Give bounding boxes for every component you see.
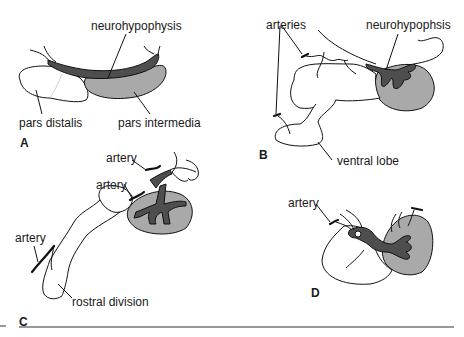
- panel-c-artery-top-label: artery: [106, 151, 137, 165]
- panel-b-upper-curve: [414, 38, 443, 64]
- panel-b-letter: B: [259, 148, 268, 162]
- panel-a-stalk-line-4: [158, 46, 160, 56]
- panel-a-stalk-line-2: [44, 46, 56, 62]
- panel-b-neurohypophysis-label: neurohypophsis: [366, 18, 451, 32]
- panel-d: artery D: [288, 196, 433, 300]
- panel-b-arteries-leader-2: [276, 26, 280, 114]
- panel-a-stalk-line-3: [144, 46, 154, 54]
- panel-c-curl-1: [172, 152, 188, 181]
- panel-c-rostral-division-label: rostral division: [72, 295, 149, 309]
- panel-a-pars-distalis-label: pars distalis: [19, 116, 82, 130]
- panel-a-neurohypophysis-label: neurohypophysis: [91, 19, 182, 33]
- panel-b-ventral-lobe-leader: [318, 142, 332, 160]
- panel-c-stalk-right: [62, 212, 120, 296]
- pituitary-comparative-anatomy-figure: neurohypophysis pars distalis pars inter…: [0, 0, 464, 337]
- panel-d-artery-label: artery: [288, 196, 319, 210]
- panel-a: neurohypophysis pars distalis pars inter…: [19, 19, 201, 150]
- panel-d-letter: D: [311, 286, 320, 300]
- panel-a-pars-intermedia-label: pars intermedia: [118, 116, 201, 130]
- panel-b-arteries-label: arteries: [266, 18, 306, 32]
- panel-d-vessel-loop: [355, 231, 361, 237]
- panel-d-artery-right: [412, 208, 422, 210]
- panel-b-artery-vessel: [306, 55, 348, 60]
- panel-c: artery artery artery rostral division C: [15, 151, 198, 329]
- panel-b-ventral-lobe-label: ventral lobe: [337, 154, 399, 168]
- panel-b-neurohypophysis-leader: [386, 34, 398, 70]
- panel-c-artery-left-label: artery: [15, 231, 46, 245]
- panel-b: arteries neurohypophsis ventral lobe B: [259, 18, 451, 168]
- panel-c-artery-mid-label: artery: [96, 178, 127, 192]
- panel-b-artery-stub-bottom: [274, 114, 280, 116]
- panel-c-artery-left-leader: [34, 246, 38, 262]
- panel-a-letter: A: [20, 136, 29, 150]
- panel-c-artery-top: [146, 166, 160, 170]
